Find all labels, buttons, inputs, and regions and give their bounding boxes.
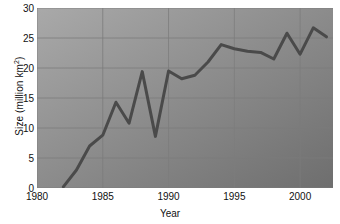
y-axis-tick-label: 25	[8, 33, 34, 44]
x-axis-tick-label: 2000	[289, 191, 311, 202]
x-axis-tick-label: 1985	[92, 191, 114, 202]
x-axis-tick-label: 1980	[26, 191, 48, 202]
y-axis-tick-label: 20	[8, 63, 34, 74]
y-axis-tick-label: 30	[8, 3, 34, 14]
plot-area	[37, 8, 333, 188]
x-axis-title: Year	[0, 208, 340, 219]
line-chart-svg	[37, 8, 333, 188]
y-axis-tick-label: 15	[8, 93, 34, 104]
x-axis-tick-labels: 19801985199019952000	[0, 191, 340, 207]
chart-container: Size (million km2) 051015202530 19801985…	[0, 0, 340, 224]
y-axis-tick-label: 5	[8, 153, 34, 164]
y-axis-tick-label: 10	[8, 123, 34, 134]
x-axis-tick-label: 1990	[157, 191, 179, 202]
x-axis-tick-label: 1995	[223, 191, 245, 202]
